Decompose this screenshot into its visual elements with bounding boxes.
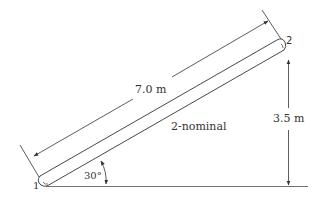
pipe-label: 2-nominal — [171, 121, 227, 132]
point-1-label: 1 — [33, 181, 39, 191]
point-2-label: 2 — [286, 36, 292, 46]
height-label: 3.5 m — [273, 113, 304, 124]
angle-label: 30° — [84, 171, 102, 181]
inclined-pipe-diagram: 7.0 m 2-nominal 3.5 m 30° 1 2 — [0, 0, 324, 205]
length-label: 7.0 m — [135, 84, 166, 95]
diagram-drawing — [0, 0, 324, 205]
angle-arc — [101, 161, 106, 184]
pipe — [38, 39, 286, 186]
